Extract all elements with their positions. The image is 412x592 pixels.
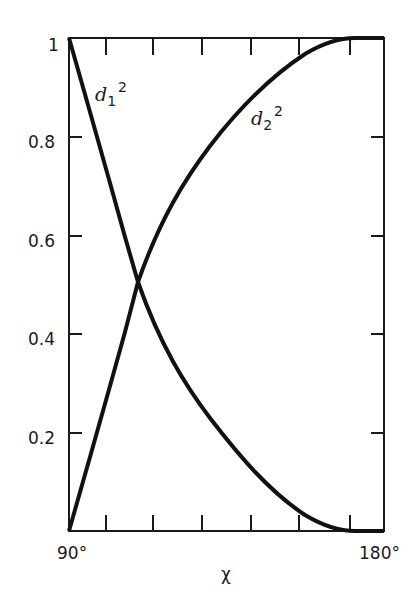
curve-label-d1-squared: d12 — [95, 79, 127, 109]
plot-frame — [69, 38, 384, 531]
chart: 1 0.8 0.6 0.4 0.2 90° 180° χ d12 d22 — [0, 0, 412, 592]
d2-superscript: 2 — [274, 103, 283, 119]
y-tick-label-1: 1 — [48, 35, 59, 55]
x-axis-title: χ — [221, 564, 231, 584]
x-ticks-bottom — [106, 515, 350, 531]
curve-d2-squared — [69, 38, 384, 531]
d2-subscript: 2 — [263, 117, 272, 133]
d1-subscript: 1 — [107, 93, 116, 109]
y-tick-label-0.2: 0.2 — [28, 428, 55, 448]
y-ticks-left — [69, 137, 82, 433]
x-ticks-top — [106, 38, 350, 55]
y-tick-label-0.6: 0.6 — [28, 231, 55, 251]
y-ticks-right — [371, 137, 384, 433]
curve-label-d2-squared: d22 — [251, 103, 283, 133]
d2-base: d — [251, 107, 263, 129]
y-tick-label-0.8: 0.8 — [28, 132, 55, 152]
x-tick-label-180: 180° — [359, 543, 400, 563]
y-tick-label-0.4: 0.4 — [28, 329, 55, 349]
d1-base: d — [95, 83, 107, 105]
x-tick-label-90: 90° — [57, 543, 87, 563]
curve-d1-squared — [69, 38, 384, 531]
d1-superscript: 2 — [118, 79, 127, 95]
